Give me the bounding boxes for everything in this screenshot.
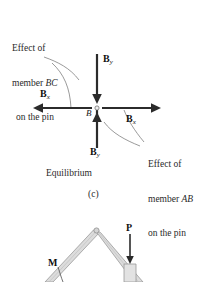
- frame-moment-label-m: M: [48, 257, 57, 268]
- load-block: [124, 264, 136, 282]
- frame-load-label-p: P: [126, 222, 132, 233]
- load-arrowhead: [126, 256, 134, 264]
- frame-apex-pin: [94, 228, 99, 233]
- figure-root: Effect of member BC on the pin Effect of…: [0, 0, 202, 282]
- frame-diagram-svg: [0, 0, 202, 282]
- frame-member-left: [45, 230, 99, 282]
